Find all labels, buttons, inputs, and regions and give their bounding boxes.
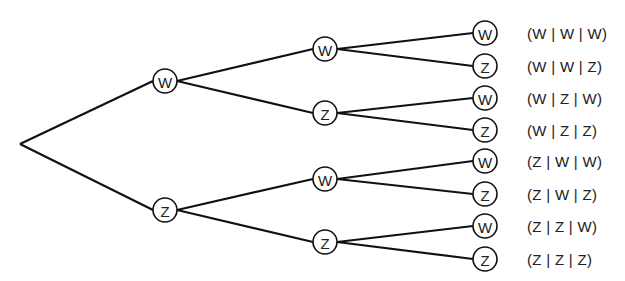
node-label: W bbox=[158, 74, 173, 91]
tree-node-w: W bbox=[153, 69, 177, 93]
outcome-label: (Z | W | W) bbox=[527, 153, 602, 170]
node-label: Z bbox=[320, 235, 329, 252]
tree-branch bbox=[337, 179, 473, 194]
tree-node-w: W bbox=[313, 167, 337, 191]
tree-node-z: Z bbox=[313, 230, 337, 254]
tree-branch bbox=[20, 144, 153, 210]
tree-branch bbox=[177, 81, 313, 113]
tree-branch bbox=[337, 242, 473, 259]
outcome-label: (Z | Z | Z) bbox=[527, 251, 592, 268]
node-label: Z bbox=[480, 252, 489, 269]
node-label: W bbox=[478, 26, 493, 43]
node-label: Z bbox=[320, 106, 329, 123]
tree-node-z: Z bbox=[473, 54, 497, 78]
tree-node-z: Z bbox=[313, 101, 337, 125]
tree-node-w: W bbox=[473, 214, 497, 238]
node-label: Z bbox=[480, 123, 489, 140]
outcome-label: (W | W | W) bbox=[527, 25, 607, 42]
outcome-label: (W | W | Z) bbox=[527, 58, 602, 75]
node-label: W bbox=[478, 154, 493, 171]
tree-branch bbox=[337, 161, 473, 179]
node-label: W bbox=[478, 91, 493, 108]
tree-node-z: Z bbox=[473, 118, 497, 142]
tree-branch bbox=[337, 113, 473, 130]
node-label: Z bbox=[160, 203, 169, 220]
node-label: W bbox=[318, 42, 333, 59]
node-label: Z bbox=[480, 59, 489, 76]
tree-node-w: W bbox=[473, 86, 497, 110]
node-label: Z bbox=[480, 187, 489, 204]
tree-node-z: Z bbox=[153, 198, 177, 222]
tree-nodes: WZWZWZWZWZWZWZ bbox=[153, 21, 497, 271]
tree-branch bbox=[177, 49, 313, 81]
tree-node-z: Z bbox=[473, 182, 497, 206]
node-label: W bbox=[478, 219, 493, 236]
outcome-label: (Z | W | Z) bbox=[527, 186, 597, 203]
tree-node-w: W bbox=[313, 37, 337, 61]
tree-node-w: W bbox=[473, 149, 497, 173]
tree-branch bbox=[337, 226, 473, 242]
tree-branch bbox=[177, 179, 313, 210]
tree-branch bbox=[177, 210, 313, 242]
node-label: W bbox=[318, 172, 333, 189]
tree-diagram: WZWZWZWZWZWZWZ bbox=[0, 0, 625, 281]
outcome-label: (W | Z | W) bbox=[527, 90, 602, 107]
tree-edges bbox=[20, 33, 473, 259]
tree-node-z: Z bbox=[473, 247, 497, 271]
tree-branch bbox=[337, 33, 473, 49]
tree-branch bbox=[337, 98, 473, 113]
tree-branch bbox=[20, 81, 153, 144]
outcome-label: (Z | Z | W) bbox=[527, 218, 597, 235]
outcome-label: (W | Z | Z) bbox=[527, 122, 597, 139]
tree-branch bbox=[337, 49, 473, 66]
tree-node-w: W bbox=[473, 21, 497, 45]
